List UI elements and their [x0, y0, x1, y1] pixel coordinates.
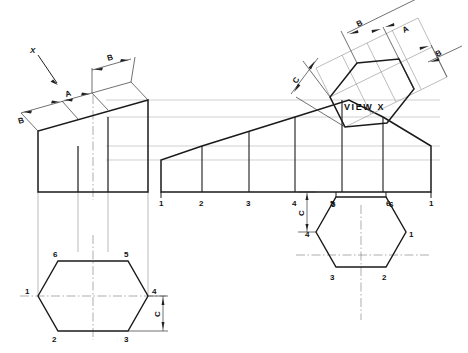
- dimension-label-a: A: [64, 89, 72, 99]
- center-lines: [20, 95, 430, 340]
- drawing-sheet: B A B X 1 6 5 4 2 3 C 1 2 3 4 5 6: [0, 0, 468, 353]
- projection-lines: [106, 100, 440, 160]
- left-view-dimension-lines: [21, 57, 148, 131]
- plan-left-vertex-6: 6: [53, 250, 58, 259]
- plan-right-vertex-2: 2: [382, 273, 387, 282]
- front-baseline-label-2: 2: [199, 199, 204, 208]
- plan-left-vertex-2: 2: [52, 335, 57, 344]
- plan-left-vertex-3: 3: [124, 335, 129, 344]
- auxiliary-dimension-lines: [341, 0, 462, 89]
- plan-right-vertex-1: 1: [409, 230, 414, 239]
- plan-right-vertex-5: 5: [331, 200, 336, 209]
- front-baseline-label-1b: 1: [429, 199, 434, 208]
- plan-left-vertex-4: 4: [152, 287, 157, 296]
- auxiliary-label-c: C: [291, 75, 302, 85]
- dimension-label-b-right: B: [106, 53, 114, 63]
- front-baseline-label-4: 4: [292, 199, 297, 208]
- auxiliary-label-b-left: B: [355, 18, 364, 29]
- dimension-label-b-left: B: [17, 116, 25, 126]
- auxiliary-label-a: A: [401, 24, 410, 35]
- plan-right-vertex-3: 3: [330, 273, 335, 282]
- front-baseline-label-3: 3: [246, 199, 251, 208]
- auxiliary-label-b-right: B: [434, 48, 443, 59]
- auxiliary-view-title: VIEW X: [344, 102, 385, 112]
- front-baseline-label-1a: 1: [159, 199, 164, 208]
- front-view-label-c: C: [297, 210, 306, 216]
- plan-right-vertex-4: 4: [305, 230, 310, 239]
- direction-arrow-x: [38, 55, 58, 85]
- engineering-drawing-canvas: B A B X 1 6 5 4 2 3 C 1 2 3 4 5 6: [0, 0, 468, 353]
- plan-right-vertex-6: 6: [389, 200, 394, 209]
- direction-label-x: X: [29, 46, 36, 55]
- left-plan-dimension-c: [128, 296, 168, 331]
- plan-left-vertex-1: 1: [25, 287, 30, 296]
- left-plan-label-c: C: [153, 311, 162, 317]
- front-view-baseline-ticks: [161, 192, 431, 198]
- plan-left-vertex-5: 5: [124, 250, 129, 259]
